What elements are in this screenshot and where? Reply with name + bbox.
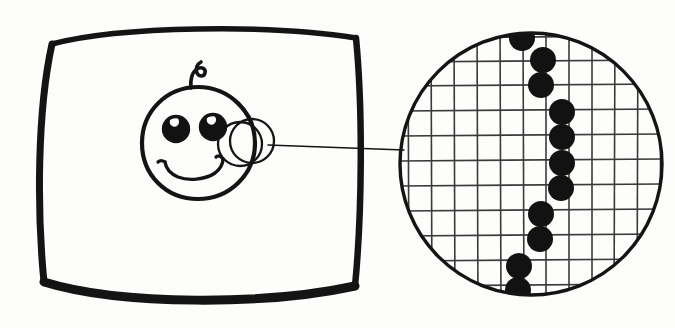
pixel-dot bbox=[548, 175, 574, 201]
pixel-dot bbox=[509, 25, 535, 51]
magnified-pixel-circle bbox=[390, 20, 672, 312]
left-eye bbox=[164, 117, 189, 142]
pixel-dot bbox=[528, 201, 554, 227]
right-eye bbox=[201, 115, 226, 140]
pixel-dot bbox=[530, 47, 556, 73]
grid-v-4 bbox=[500, 20, 501, 312]
grid-v-0 bbox=[408, 20, 409, 312]
mouth-smile bbox=[165, 159, 223, 179]
grid-v-1 bbox=[431, 20, 432, 312]
grid-h-5 bbox=[390, 159, 672, 161]
diagram-svg bbox=[0, 0, 675, 328]
grid-h-3 bbox=[390, 109, 672, 111]
mouth-tick-left bbox=[158, 161, 165, 163]
grid-h-10 bbox=[390, 284, 672, 286]
grid-v-10 bbox=[637, 20, 638, 312]
grid-h-4 bbox=[390, 134, 672, 136]
pixel-dot bbox=[506, 253, 532, 279]
magnified-circle-rim bbox=[400, 33, 662, 295]
grid-v-3 bbox=[477, 20, 478, 312]
pixel-dot bbox=[528, 72, 554, 98]
pixel-dot bbox=[527, 226, 553, 252]
magnifier-region bbox=[218, 119, 274, 166]
pixel-dot bbox=[505, 277, 531, 303]
screen-edge-right bbox=[355, 38, 361, 286]
screen-edge-bottom bbox=[44, 282, 355, 300]
grid-h-9 bbox=[390, 259, 672, 261]
left-eye-pupil bbox=[164, 118, 188, 142]
right-eye-pupil bbox=[201, 116, 225, 140]
pixel-dot bbox=[549, 124, 575, 150]
connector-stroke bbox=[268, 145, 404, 150]
screen-edge-left bbox=[39, 44, 52, 282]
connector-line bbox=[268, 145, 404, 150]
smiley-face bbox=[142, 62, 255, 199]
filled-pixel-dots bbox=[505, 25, 575, 303]
hair-curl bbox=[191, 62, 205, 88]
pixel-dot bbox=[549, 150, 575, 176]
screen-edge-top bbox=[52, 29, 356, 44]
diagram-canvas bbox=[0, 0, 675, 328]
pixel-dot bbox=[549, 99, 575, 125]
face-outline bbox=[142, 87, 255, 199]
